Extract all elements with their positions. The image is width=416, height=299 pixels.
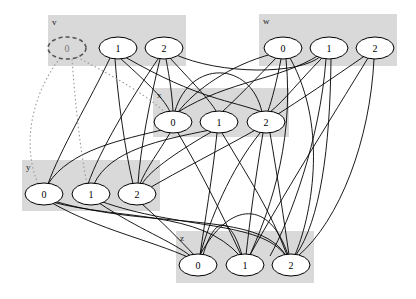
- node-z2[interactable]: 2: [272, 254, 310, 276]
- node-w0[interactable]: 0: [264, 37, 302, 59]
- edge: [52, 203, 190, 258]
- node-x0[interactable]: 0: [154, 111, 192, 133]
- node-y2[interactable]: 2: [118, 183, 156, 205]
- node-w2[interactable]: 2: [356, 37, 394, 59]
- node-x1[interactable]: 1: [200, 111, 238, 133]
- cluster-label: v: [52, 17, 57, 27]
- node-y0[interactable]: 0: [25, 183, 63, 205]
- node-label: 0: [171, 117, 176, 128]
- node-label: 0: [196, 260, 201, 271]
- node-label: 0: [65, 43, 70, 54]
- node-label: 1: [116, 43, 121, 54]
- node-label: 2: [162, 43, 167, 54]
- node-label: 0: [281, 43, 286, 54]
- node-label: 1: [327, 43, 332, 54]
- node-z0[interactable]: 0: [179, 254, 217, 276]
- node-label: 1: [217, 117, 222, 128]
- node-v2[interactable]: 2: [145, 37, 183, 59]
- edge: [142, 204, 195, 256]
- node-label: 2: [373, 43, 378, 54]
- edges-layer: [30, 54, 374, 258]
- node-label: 2: [264, 117, 269, 128]
- node-z1[interactable]: 1: [226, 254, 264, 276]
- node-label: 2: [135, 189, 140, 200]
- edge: [298, 59, 374, 256]
- node-w1[interactable]: 1: [310, 37, 348, 59]
- node-v1[interactable]: 1: [99, 37, 137, 59]
- node-label: 1: [243, 260, 248, 271]
- cluster-label: y: [26, 162, 31, 172]
- node-label: 0: [42, 189, 47, 200]
- node-x2[interactable]: 2: [247, 111, 285, 133]
- node-label: 1: [89, 189, 94, 200]
- node-y1[interactable]: 1: [72, 183, 110, 205]
- cluster-label: w: [263, 16, 270, 26]
- graph-diagram: vwxyz 012012012012012: [0, 0, 416, 299]
- node-label: 2: [289, 260, 294, 271]
- edge: [250, 58, 368, 255]
